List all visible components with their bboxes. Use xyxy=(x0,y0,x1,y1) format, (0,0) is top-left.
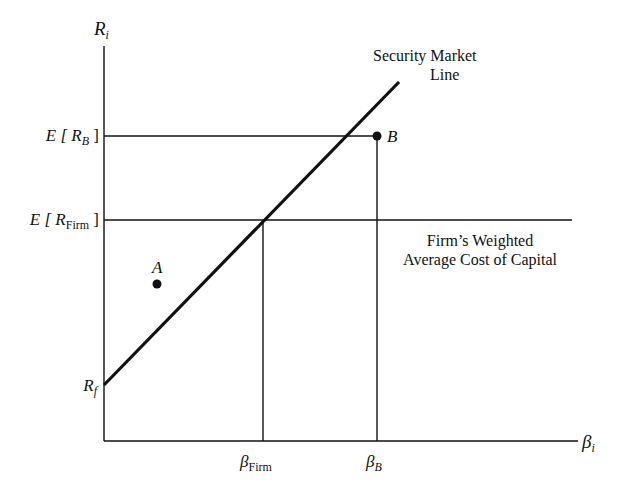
x-axis-label: βi xyxy=(582,432,595,454)
y-tick-expected-return-firm: E [ RFirm ] xyxy=(30,211,99,231)
y-tick-symbol: R xyxy=(55,210,65,229)
y-tick-suffix: ] xyxy=(89,126,99,145)
wacc-annotation-line1: Firm’s Weighted xyxy=(384,231,576,250)
y-tick-risk-free-rate: Rf xyxy=(83,377,97,397)
x-tick-subscript: Firm xyxy=(248,460,271,474)
y-axis-label: Ri xyxy=(94,19,109,41)
wacc-annotation-line2: Average Cost of Capital xyxy=(384,250,576,269)
sml-diagram: Ri βi E [ RB ] E [ RFirm ] Rf βFirm βB S… xyxy=(0,0,627,484)
x-axis-subscript: i xyxy=(591,441,594,455)
sml-annotation: Security Market Line xyxy=(373,46,477,84)
y-tick-symbol: R xyxy=(83,376,93,395)
point-a-marker xyxy=(153,280,162,289)
y-axis-subscript: i xyxy=(106,28,109,42)
y-tick-subscript: B xyxy=(82,134,89,148)
sml-annotation-line1: Security Market xyxy=(373,46,477,65)
y-tick-prefix: E [ xyxy=(30,210,56,229)
point-b-marker xyxy=(373,132,382,141)
point-b-label: B xyxy=(387,128,397,145)
x-tick-subscript: B xyxy=(374,460,381,474)
y-tick-symbol: R xyxy=(71,126,81,145)
y-tick-prefix: E [ xyxy=(46,126,72,145)
y-tick-suffix: ] xyxy=(89,210,99,229)
security-market-line xyxy=(104,82,399,385)
y-tick-subscript: f xyxy=(94,384,97,398)
y-tick-subscript: Firm xyxy=(66,218,89,232)
y-tick-expected-return-b: E [ RB ] xyxy=(46,127,99,147)
x-tick-beta-b: βB xyxy=(366,453,382,473)
x-tick-beta-firm: βFirm xyxy=(240,453,272,473)
y-axis-symbol: R xyxy=(94,18,106,39)
wacc-annotation: Firm’s Weighted Average Cost of Capital xyxy=(384,231,576,269)
sml-annotation-line2: Line xyxy=(373,65,477,84)
point-a-label: A xyxy=(152,259,162,276)
